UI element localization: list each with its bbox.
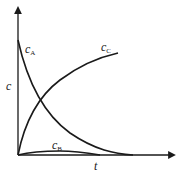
plot-canvas [0, 0, 186, 182]
y-axis-label: c [6, 80, 11, 92]
label-ca: cA [25, 43, 35, 57]
curve-ca [18, 40, 133, 155]
x-axis-label: t [94, 160, 97, 172]
curve-cc [18, 53, 118, 155]
label-cc: cC [101, 41, 111, 55]
label-cb: cB [52, 139, 62, 153]
